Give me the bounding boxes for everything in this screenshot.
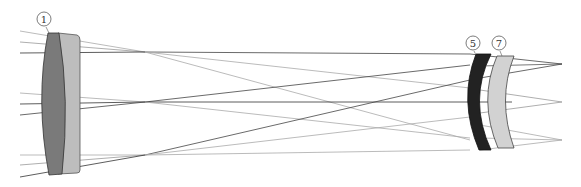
svg-text:1: 1 [41,14,47,25]
lens-1 [42,33,80,175]
label-5: 5 [466,36,480,55]
label-1: 1 [37,12,51,33]
svg-text:5: 5 [470,38,476,49]
svg-text:7: 7 [496,38,502,49]
lens-1-front-element [42,33,66,175]
lens-diagram: 1 5 7 [0,0,581,187]
light-rays [20,31,562,177]
label-7: 7 [492,36,506,56]
